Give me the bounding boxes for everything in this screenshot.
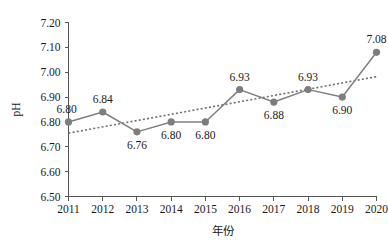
data-point-marker xyxy=(99,108,106,115)
data-point-marker xyxy=(202,118,209,125)
x-tick-label: 2012 xyxy=(91,203,114,215)
y-tick-label: 6.70 xyxy=(40,141,60,153)
data-point-marker xyxy=(270,98,277,105)
series-line-group xyxy=(69,52,377,132)
y-tick-label: 7.00 xyxy=(40,66,60,78)
data-point-label: 6.76 xyxy=(127,139,147,151)
y-tick-label: 6.60 xyxy=(40,166,60,178)
data-point-marker xyxy=(339,93,346,100)
y-axis-title: pH xyxy=(10,102,23,116)
data-point-labels: 6.806.846.766.806.806.936.886.936.907.08 xyxy=(57,33,387,151)
data-point-marker xyxy=(65,118,72,125)
x-tick-label: 2013 xyxy=(125,203,148,215)
data-point-marker xyxy=(304,86,311,93)
data-point-marker xyxy=(236,86,243,93)
x-tick-label: 2015 xyxy=(194,203,217,215)
data-point-marker xyxy=(168,118,175,125)
data-point-marker xyxy=(373,49,380,56)
y-tick-label: 6.90 xyxy=(40,91,60,103)
data-point-label: 6.93 xyxy=(298,71,318,83)
data-point-label: 6.90 xyxy=(332,104,352,116)
x-axis-tick-marks xyxy=(69,197,377,201)
chart-canvas: 6.506.606.706.806.907.007.107.20 2011201… xyxy=(0,0,388,247)
data-point-label: 6.88 xyxy=(264,109,284,121)
data-point-label: 6.80 xyxy=(195,129,215,141)
x-tick-label: 2017 xyxy=(262,203,285,215)
x-tick-label: 2016 xyxy=(228,203,251,215)
x-tick-label: 2020 xyxy=(365,203,388,215)
axes-group xyxy=(69,23,377,197)
x-axis-title: 年份 xyxy=(212,224,235,237)
data-point-label: 6.93 xyxy=(230,71,250,83)
ph-series-line xyxy=(69,52,377,132)
data-point-label: 6.80 xyxy=(161,129,181,141)
y-tick-label: 6.80 xyxy=(40,116,60,128)
ph-trend-chart: 6.506.606.706.806.907.007.107.20 2011201… xyxy=(0,0,388,247)
y-tick-label: 6.50 xyxy=(40,191,60,203)
x-tick-label: 2019 xyxy=(331,203,354,215)
x-tick-label: 2014 xyxy=(160,203,183,215)
y-tick-label: 7.20 xyxy=(40,17,60,29)
x-axis-tick-labels: 2011201220132014201520162017201820192020 xyxy=(57,203,388,215)
y-tick-label: 7.10 xyxy=(40,41,60,53)
data-point-label: 7.08 xyxy=(366,33,386,45)
x-tick-label: 2018 xyxy=(297,203,320,215)
data-point-marker xyxy=(133,128,140,135)
x-tick-label: 2011 xyxy=(57,203,80,215)
data-point-label: 6.80 xyxy=(57,103,77,115)
data-point-label: 6.84 xyxy=(93,93,113,105)
